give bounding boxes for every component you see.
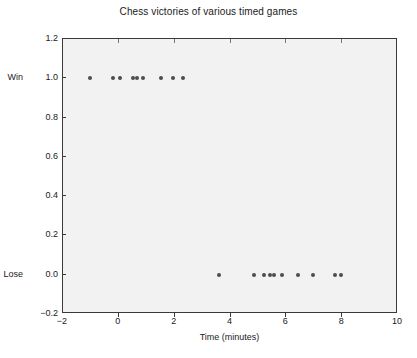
x-tick-mark-top — [230, 39, 231, 43]
data-point — [339, 273, 343, 277]
data-point — [272, 273, 276, 277]
y-tick-mark — [62, 77, 66, 78]
plot-area — [62, 38, 397, 313]
data-point — [118, 76, 122, 80]
y-axis: −0.20.00.20.40.60.81.01.2WinLose — [0, 0, 58, 358]
x-tick-mark — [285, 313, 286, 317]
y-tick-label: 1.2 — [32, 33, 58, 43]
x-tick-mark — [230, 313, 231, 317]
x-tick-mark-top — [174, 39, 175, 43]
data-point — [135, 76, 139, 80]
x-axis-label: Time (minutes) — [62, 332, 397, 342]
y-tick-mark — [62, 234, 66, 235]
y-tick-label: 1.0 — [32, 72, 58, 82]
data-point — [280, 273, 284, 277]
data-point — [111, 76, 115, 80]
data-point — [252, 273, 256, 277]
x-tick-label: 2 — [154, 316, 194, 326]
data-point — [311, 273, 315, 277]
x-tick-mark — [174, 313, 175, 317]
data-point — [333, 273, 337, 277]
y-category-label-lose: Lose — [0, 269, 23, 279]
data-point — [171, 76, 175, 80]
y-tick-label: 0.0 — [32, 269, 58, 279]
x-tick-label: −2 — [42, 316, 82, 326]
y-tick-mark — [62, 195, 66, 196]
chart-figure: Chess victories of various timed games −… — [0, 0, 417, 358]
data-point — [296, 273, 300, 277]
x-tick-label: 10 — [377, 316, 417, 326]
y-tick-label: 0.4 — [32, 190, 58, 200]
data-point — [268, 273, 272, 277]
data-point — [88, 76, 92, 80]
y-tick-mark — [62, 117, 66, 118]
chart-title: Chess victories of various timed games — [0, 6, 417, 17]
x-tick-mark — [341, 313, 342, 317]
data-point — [159, 76, 163, 80]
x-tick-label: 8 — [321, 316, 361, 326]
y-tick-mark — [62, 156, 66, 157]
y-category-label-win: Win — [0, 72, 23, 82]
data-point — [141, 76, 145, 80]
x-tick-mark-top — [118, 39, 119, 43]
x-tick-label: 6 — [265, 316, 305, 326]
x-tick-mark — [118, 313, 119, 317]
data-point — [181, 76, 185, 80]
x-tick-label: 0 — [98, 316, 138, 326]
y-tick-label: 0.8 — [32, 112, 58, 122]
y-tick-label: 0.6 — [32, 151, 58, 161]
data-point — [262, 273, 266, 277]
x-tick-label: 4 — [210, 316, 250, 326]
data-point — [217, 273, 221, 277]
x-tick-mark-top — [285, 39, 286, 43]
y-tick-mark — [62, 274, 66, 275]
x-tick-mark-top — [341, 39, 342, 43]
y-tick-label: 0.2 — [32, 229, 58, 239]
